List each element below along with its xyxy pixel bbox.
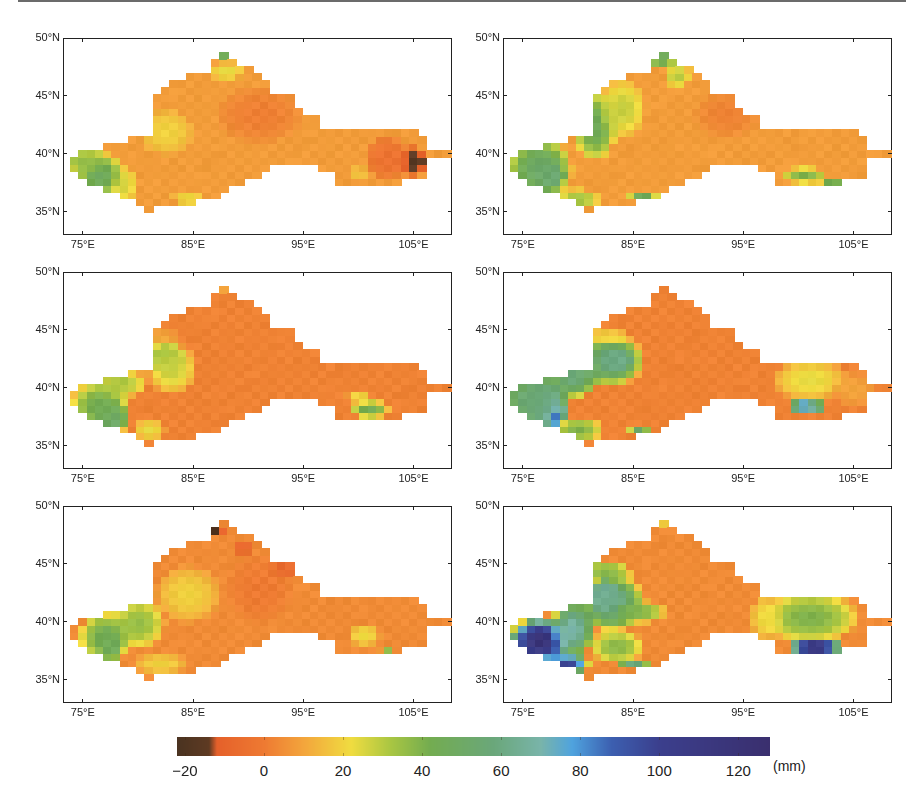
x-tick-label: 95°E: [723, 706, 763, 718]
y-tick: [63, 387, 67, 388]
y-tick-label: 35°N: [20, 439, 60, 451]
x-tick-label: 95°E: [283, 238, 323, 250]
y-tick: [888, 387, 892, 388]
y-tick-label: 50°N: [460, 499, 500, 511]
y-tick-label: 50°N: [20, 265, 60, 277]
map-heatmap: [504, 273, 893, 470]
x-tick: [743, 38, 744, 42]
x-tick: [193, 699, 194, 703]
colorbar: [177, 737, 770, 756]
x-tick-label: 95°E: [283, 472, 323, 484]
x-tick: [82, 465, 83, 469]
y-tick: [63, 329, 67, 330]
y-tick: [448, 621, 452, 622]
x-tick-label: 105°E: [393, 472, 433, 484]
x-tick: [633, 465, 634, 469]
x-tick: [853, 465, 854, 469]
x-tick: [82, 231, 83, 235]
y-tick: [888, 679, 892, 680]
x-tick: [193, 231, 194, 235]
y-tick: [503, 506, 507, 507]
x-tick: [303, 38, 304, 42]
x-tick: [522, 699, 523, 703]
x-tick: [633, 272, 634, 276]
y-tick-label: 50°N: [20, 31, 60, 43]
x-tick-label: 95°E: [723, 238, 763, 250]
x-tick-label: 95°E: [723, 472, 763, 484]
y-tick-label: 40°N: [460, 147, 500, 159]
y-tick-label: 45°N: [20, 89, 60, 101]
x-tick: [82, 699, 83, 703]
map-frame: [63, 272, 452, 469]
y-tick: [63, 95, 67, 96]
x-tick: [743, 506, 744, 510]
y-tick: [63, 445, 67, 446]
y-tick: [503, 95, 507, 96]
x-tick: [853, 231, 854, 235]
x-tick: [193, 465, 194, 469]
x-tick-label: 95°E: [283, 706, 323, 718]
x-tick: [303, 272, 304, 276]
x-tick: [743, 465, 744, 469]
map-heatmap: [64, 39, 453, 236]
y-tick-label: 40°N: [20, 615, 60, 627]
y-tick: [503, 679, 507, 680]
x-tick-label: 85°E: [173, 706, 213, 718]
y-tick-label: 35°N: [460, 673, 500, 685]
x-tick: [853, 272, 854, 276]
x-tick-label: 105°E: [393, 706, 433, 718]
x-tick: [413, 465, 414, 469]
map-frame: [63, 506, 452, 703]
colorbar-tick-label: −20: [160, 762, 210, 779]
y-tick: [448, 387, 452, 388]
x-tick: [303, 231, 304, 235]
y-tick-label: 40°N: [20, 381, 60, 393]
y-tick: [888, 95, 892, 96]
x-tick: [522, 506, 523, 510]
x-tick: [743, 231, 744, 235]
y-tick: [888, 563, 892, 564]
x-tick-label: 75°E: [63, 238, 103, 250]
x-tick: [82, 272, 83, 276]
y-tick-label: 45°N: [460, 323, 500, 335]
y-tick: [63, 506, 67, 507]
x-tick-label: 85°E: [173, 472, 213, 484]
y-tick-label: 40°N: [460, 615, 500, 627]
y-tick: [888, 445, 892, 446]
map-heatmap: [64, 273, 453, 470]
y-tick-label: 50°N: [460, 265, 500, 277]
x-tick: [522, 38, 523, 42]
x-tick: [743, 699, 744, 703]
x-tick-label: 105°E: [833, 238, 873, 250]
y-tick: [448, 211, 452, 212]
y-tick-label: 50°N: [460, 31, 500, 43]
y-tick: [888, 506, 892, 507]
y-tick: [448, 679, 452, 680]
y-tick: [503, 329, 507, 330]
x-tick: [413, 506, 414, 510]
x-tick: [413, 38, 414, 42]
x-tick: [193, 38, 194, 42]
y-tick: [503, 621, 507, 622]
y-tick: [63, 563, 67, 564]
x-tick-label: 75°E: [503, 472, 543, 484]
x-tick-label: 75°E: [503, 238, 543, 250]
map-heatmap: [504, 507, 893, 704]
x-tick: [633, 506, 634, 510]
x-tick: [743, 272, 744, 276]
top-rule: [18, 0, 906, 2]
map-frame: [503, 506, 892, 703]
y-tick-label: 45°N: [20, 557, 60, 569]
colorbar-tick-label: 100: [634, 762, 684, 779]
x-tick: [193, 506, 194, 510]
colorbar-unit: (mm): [773, 758, 806, 774]
x-tick: [853, 38, 854, 42]
colorbar-gradient: [177, 737, 770, 756]
x-tick: [303, 699, 304, 703]
y-tick-label: 40°N: [20, 147, 60, 159]
x-tick: [193, 272, 194, 276]
x-tick-label: 75°E: [63, 706, 103, 718]
y-tick: [503, 445, 507, 446]
y-tick-label: 35°N: [20, 205, 60, 217]
y-tick: [448, 38, 452, 39]
